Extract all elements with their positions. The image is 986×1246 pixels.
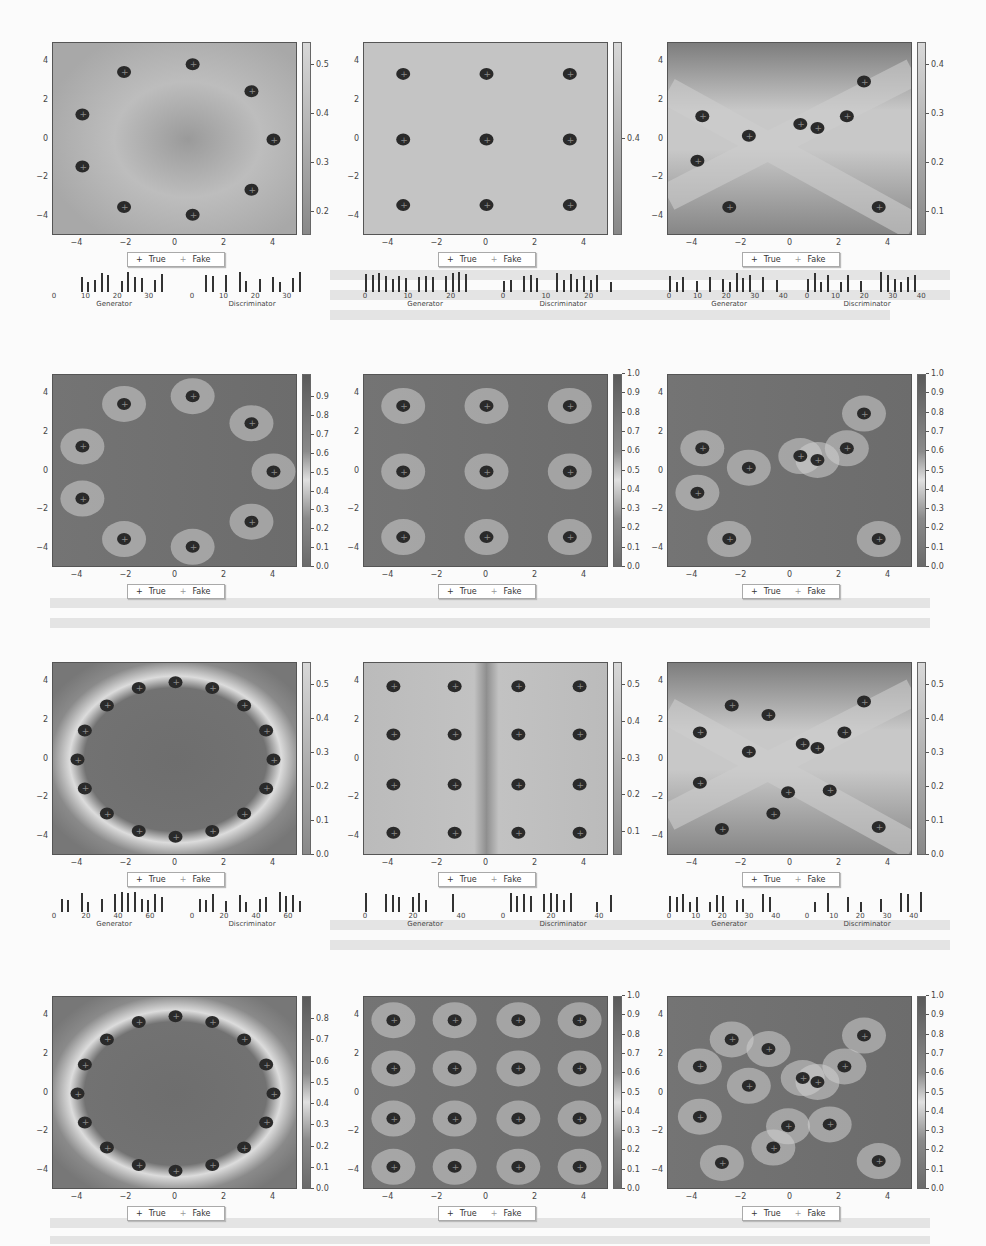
histogram-ticks: 0204060	[192, 912, 312, 920]
colorbar-tick-label: 0.6	[622, 1069, 640, 1077]
histogram-bar	[405, 278, 407, 292]
svg-text:+: +	[800, 1073, 808, 1083]
histogram-bar	[114, 894, 116, 912]
legend: +True+Fake	[127, 252, 225, 267]
colorbar-tick-label: 0.5	[622, 681, 640, 689]
svg-text:+: +	[876, 534, 884, 544]
colorbar-tick-label: 0.2	[926, 783, 944, 791]
discriminator-label: Discriminator	[807, 920, 927, 928]
x-tick-label: 0	[165, 571, 185, 579]
histogram-ticks: 010203040	[807, 912, 927, 920]
svg-text:+: +	[190, 542, 198, 552]
histogram-bar	[847, 275, 849, 292]
legend-true-label: True	[460, 585, 477, 598]
histogram-bar	[265, 897, 267, 912]
colorbar	[917, 42, 926, 235]
colorbar-tick-label: 0.8	[926, 1031, 944, 1039]
histogram-tick-label: 20	[82, 912, 91, 920]
histogram-tick-label: 40	[779, 292, 788, 300]
histogram-bar	[840, 282, 842, 292]
svg-text:+: +	[844, 443, 852, 453]
histogram-bar	[425, 276, 427, 292]
x-tick-label: −4	[682, 859, 702, 867]
histogram-bar	[205, 900, 207, 912]
histogram-ticks: 0102030	[54, 292, 174, 300]
true-marker-icon: +	[136, 253, 143, 266]
svg-text:+: +	[82, 1117, 90, 1127]
x-tick-label: 0	[780, 571, 800, 579]
y-tick-label: 0	[341, 1089, 359, 1097]
histogram-bar	[299, 272, 301, 292]
svg-text:+: +	[765, 710, 773, 720]
histogram-tick-label: 30	[883, 912, 892, 920]
histogram-bar	[245, 902, 247, 912]
svg-text:+: +	[400, 135, 408, 145]
y-tick-label: 2	[30, 716, 48, 724]
discriminator-label: Discriminator	[503, 300, 623, 308]
histogram-bar	[398, 276, 400, 292]
svg-text:+: +	[79, 441, 87, 451]
histogram-ticks: 0102030	[192, 292, 312, 300]
colorbar-tick-label: 0.3	[311, 159, 329, 167]
histogram-bar	[682, 894, 684, 912]
colorbar	[613, 996, 622, 1189]
x-tick-label: 0	[476, 571, 496, 579]
colorbar-tick-label: 0.6	[622, 447, 640, 455]
svg-text:+: +	[746, 131, 754, 141]
histogram-bar	[900, 282, 902, 292]
svg-text:+: +	[121, 67, 129, 77]
histogram-bar	[127, 893, 129, 912]
svg-text:+: +	[79, 494, 87, 504]
colorbar-tick-label: 0.7	[622, 428, 640, 436]
histogram-bar	[709, 277, 711, 292]
legend-fake-label: Fake	[503, 1207, 521, 1220]
histogram-bar	[418, 893, 420, 912]
svg-text:+: +	[271, 467, 279, 477]
histogram-bar	[141, 278, 143, 292]
svg-text:+: +	[484, 135, 492, 145]
histogram-bar	[742, 278, 744, 292]
histogram-bar	[378, 273, 380, 292]
histogram-bar	[583, 276, 585, 292]
histogram-bar	[365, 274, 367, 292]
y-tick-label: 4	[30, 57, 48, 65]
histogram-bar	[452, 894, 454, 912]
legend: +True+Fake	[438, 872, 536, 887]
y-tick-label: −4	[341, 544, 359, 552]
svg-text:+: +	[515, 780, 523, 790]
true-marker-icon: +	[447, 873, 454, 886]
x-tick-label: −4	[682, 1193, 702, 1201]
svg-text:+: +	[577, 828, 585, 838]
histogram-bar	[550, 893, 552, 912]
x-tick-label: −4	[682, 571, 702, 579]
histogram-ticks: 02040	[365, 912, 485, 920]
svg-text:+: +	[699, 111, 707, 121]
svg-text:+: +	[770, 1143, 778, 1153]
colorbar-tick-label: 0.3	[926, 1127, 944, 1135]
histogram-tick-label: 20	[547, 912, 556, 920]
svg-text:+: +	[876, 822, 884, 832]
svg-text:+: +	[173, 1166, 181, 1176]
colorbar-tick-label: 0.5	[311, 61, 329, 69]
svg-text:+: +	[209, 1017, 217, 1027]
colorbar-tick-label: 0.5	[622, 1089, 640, 1097]
histogram-bar	[676, 897, 678, 912]
histogram-ticks: 010203040	[669, 292, 789, 300]
generator-histogram: 010203040Generator	[669, 270, 789, 306]
x-tick-label: −4	[67, 239, 87, 247]
colorbar	[302, 42, 311, 235]
svg-text:+: +	[567, 467, 575, 477]
histogram-bar	[907, 277, 909, 292]
svg-text:+: +	[577, 780, 585, 790]
histogram-bar	[285, 896, 287, 912]
svg-text:+: +	[800, 739, 808, 749]
svg-text:+: +	[719, 1158, 727, 1168]
histogram-bar	[523, 894, 525, 912]
colorbar-tick-label: 0.4	[622, 135, 640, 143]
legend: +True+Fake	[438, 584, 536, 599]
histogram-tick-label: 0	[667, 292, 671, 300]
histogram-bar	[121, 281, 123, 292]
svg-text:+: +	[694, 156, 702, 166]
colorbar-tick-label: 0.0	[311, 851, 329, 859]
legend-fake-label: Fake	[192, 585, 210, 598]
